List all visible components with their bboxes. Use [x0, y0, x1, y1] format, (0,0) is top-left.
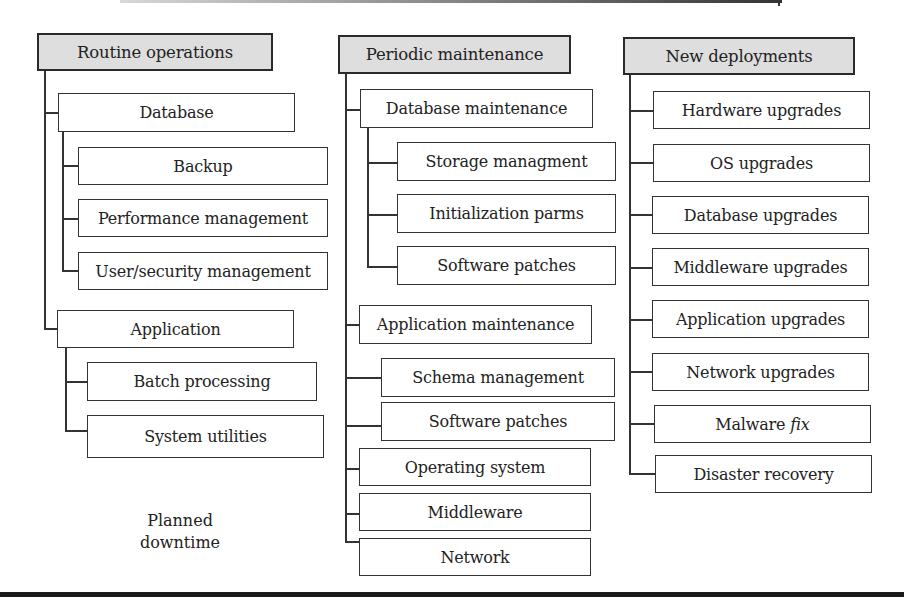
node-network: Network [359, 538, 591, 576]
node-label: Batch processing [134, 372, 271, 391]
node-database-maintenance: Database maintenance [360, 89, 593, 128]
node-os-upgrades: OS upgrades [653, 144, 870, 182]
node-schema-management: Schema management [381, 358, 615, 397]
node-label: User/security management [95, 262, 310, 281]
node-label: Middleware upgrades [673, 258, 847, 277]
node-user-security-management: User/security management [78, 252, 328, 290]
connector-line [345, 74, 347, 542]
node-label: Middleware [428, 503, 523, 522]
node-software-patches-app: Software patches [381, 402, 615, 441]
connector-line [345, 425, 381, 427]
node-label: Application maintenance [377, 315, 574, 334]
connector-line [62, 218, 78, 220]
node-initialization-parms: Initialization parms [397, 194, 616, 233]
connector-line [65, 430, 87, 432]
node-label: Initialization parms [429, 204, 583, 223]
connector-line [65, 381, 87, 383]
node-label: Operating system [405, 458, 546, 477]
connector-line [62, 270, 78, 272]
connector-line [629, 110, 653, 112]
connector-line [367, 266, 397, 268]
node-label: Disaster recovery [693, 465, 833, 484]
node-label: System utilities [144, 427, 266, 446]
header-label: Periodic maintenance [366, 45, 543, 64]
connector-line [367, 128, 369, 267]
node-label: Malware [715, 415, 790, 434]
connector-line [65, 348, 67, 431]
connector-line [345, 513, 359, 515]
node-label: Backup [173, 157, 232, 176]
connector-line [62, 132, 64, 271]
node-backup: Backup [78, 147, 328, 185]
connector-line [629, 473, 655, 475]
node-malware-fix: Malware fix [654, 405, 871, 443]
node-label: Performance management [98, 209, 308, 228]
node-operating-system: Operating system [359, 448, 591, 486]
node-label: Schema management [412, 368, 584, 387]
node-software-patches-db: Software patches [397, 246, 616, 285]
node-database-upgrades: Database upgrades [652, 196, 869, 234]
node-label: Database upgrades [684, 206, 837, 225]
planned-downtime-label: Planned downtime [120, 510, 240, 554]
connector-line [367, 162, 397, 164]
node-label: Application [130, 320, 220, 339]
node-label: Network [440, 548, 509, 567]
connector-line [629, 162, 653, 164]
connector-line [629, 319, 653, 321]
node-network-upgrades: Network upgrades [652, 353, 869, 391]
connector-line [345, 324, 359, 326]
header-label: Routine operations [77, 43, 233, 62]
top-rule-end [778, 0, 780, 6]
node-application-maintenance: Application maintenance [359, 305, 592, 344]
node-disaster-recovery: Disaster recovery [655, 455, 872, 493]
node-label: Database [139, 103, 213, 122]
header-label: New deployments [665, 47, 812, 66]
connector-line [367, 214, 397, 216]
node-middleware-upgrades: Middleware upgrades [652, 248, 869, 286]
connector-line [345, 377, 381, 379]
node-performance-management: Performance management [78, 199, 328, 237]
connector-line [44, 71, 46, 329]
header-periodic-maintenance: Periodic maintenance [338, 35, 571, 74]
node-hardware-upgrades: Hardware upgrades [653, 91, 870, 129]
node-label: Software patches [429, 412, 567, 431]
connector-line [629, 267, 653, 269]
node-label: Hardware upgrades [682, 101, 841, 120]
node-label: Software patches [437, 256, 575, 275]
node-label: OS upgrades [710, 154, 813, 173]
node-label: Network upgrades [686, 363, 834, 382]
node-application-upgrades: Application upgrades [652, 300, 869, 338]
node-label-italic: fix [790, 415, 809, 434]
node-batch-processing: Batch processing [87, 362, 317, 401]
node-system-utilities: System utilities [87, 415, 324, 458]
connector-line [629, 214, 653, 216]
connector-line [629, 423, 655, 425]
header-new-deployments: New deployments [623, 37, 855, 75]
connector-line [345, 541, 359, 543]
node-middleware: Middleware [359, 493, 591, 531]
node-application: Application [57, 310, 294, 348]
note-line-1: Planned [120, 510, 240, 532]
connector-line [345, 468, 359, 470]
node-label: Database maintenance [386, 99, 568, 118]
connector-line [629, 371, 653, 373]
header-routine-operations: Routine operations [37, 33, 273, 71]
connector-line [629, 75, 631, 474]
note-line-2: downtime [120, 532, 240, 554]
node-label: Storage managment [426, 152, 588, 171]
node-database: Database [58, 93, 295, 132]
top-rule [120, 0, 782, 3]
node-storage-managment: Storage managment [397, 142, 616, 181]
connector-line [44, 112, 58, 114]
connector-line [62, 165, 78, 167]
connector-line [44, 328, 58, 330]
bottom-rule [0, 592, 904, 597]
node-label: Application upgrades [676, 310, 845, 329]
connector-line [345, 109, 360, 111]
